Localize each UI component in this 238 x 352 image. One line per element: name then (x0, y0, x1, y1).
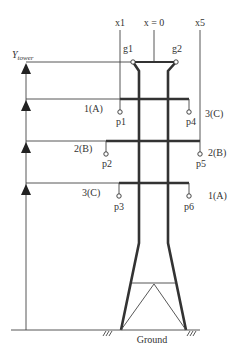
p2-label: p2 (102, 158, 112, 169)
x5-label: x5 (195, 17, 205, 28)
x0-label: x = 0 (144, 17, 165, 28)
arrow-up-icon (21, 142, 31, 153)
ground-hatch-right-icon (187, 331, 196, 336)
tower-diagram: x1 x = 0 x5 Ytower g1 g2 p1 p4 1(A) 3(C)… (0, 0, 238, 352)
conductor-p4 (187, 110, 191, 114)
conductor-p5 (198, 152, 202, 156)
tower-right-leg (168, 62, 186, 330)
arrow-up-icon (21, 63, 31, 74)
ground-hatch-left-icon (103, 331, 112, 336)
conductor-p1 (118, 110, 122, 114)
ground-wire-g2 (174, 60, 178, 64)
p6-label: p6 (184, 201, 194, 212)
arrow-up-icon (21, 184, 31, 195)
tower-brace-diagonal (121, 284, 186, 330)
phase-label-left-3: 3(C) (82, 187, 100, 199)
x1-label: x1 (115, 17, 125, 28)
arrow-up-icon (21, 100, 31, 111)
p1-label: p1 (116, 116, 126, 127)
g1-label: g1 (123, 43, 133, 54)
y-tower-label: Ytower (12, 49, 34, 62)
phase-label-left-1: 1(A) (84, 103, 103, 115)
ground-label: Ground (137, 334, 168, 345)
phase-label-left-2: 2(B) (74, 143, 92, 155)
conductor-p2 (104, 152, 108, 156)
phase-label-right-3: 1(A) (208, 190, 227, 202)
phase-label-right-1: 3(C) (205, 108, 223, 120)
conductor-p6 (187, 194, 191, 198)
p4-label: p4 (186, 116, 196, 127)
p3-label: p3 (114, 201, 124, 212)
g2-label: g2 (172, 43, 182, 54)
phase-label-right-2: 2(B) (208, 147, 226, 159)
tower-left-leg (121, 62, 139, 330)
conductor-p3 (117, 194, 121, 198)
p5-label: p5 (196, 158, 206, 169)
ground-wire-g1 (131, 60, 135, 64)
